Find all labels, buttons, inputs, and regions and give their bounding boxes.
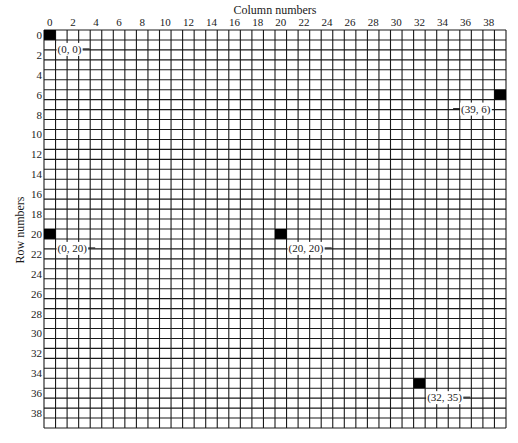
column-tick-label: 30 (391, 16, 403, 28)
column-tick-label: 2 (70, 16, 76, 28)
column-tick-label: 10 (160, 16, 172, 28)
row-tick-label: 36 (31, 387, 43, 399)
row-tick-label: 10 (31, 128, 43, 140)
column-axis-title: Column numbers (234, 3, 317, 17)
row-tick-label: 4 (37, 69, 43, 81)
column-tick-label: 18 (252, 16, 264, 28)
cell-coordinate-label: (0, 0) (58, 43, 82, 56)
column-tick-label: 36 (460, 16, 472, 28)
row-tick-label: 38 (31, 407, 43, 419)
cell-coordinate-label: (20, 20) (289, 242, 324, 255)
row-tick-label: 2 (37, 49, 43, 61)
row-tick-label: 26 (31, 288, 43, 300)
row-tick-label: 28 (31, 308, 43, 320)
filled-cell (275, 229, 287, 239)
cell-coordinate-label: (32, 35) (427, 391, 462, 404)
pixel-grid-diagram: Column numbers Row numbers 0246810121416… (0, 0, 518, 443)
column-tick-label: 14 (206, 16, 218, 28)
column-tick-label: 32 (414, 16, 425, 28)
row-tick-label: 20 (31, 228, 43, 240)
column-tick-label: 6 (116, 16, 122, 28)
column-tick-label: 24 (321, 16, 333, 28)
row-tick-labels: 02468101214161820222426283032343638 (31, 29, 43, 419)
column-tick-label: 22 (298, 16, 309, 28)
row-tick-label: 24 (31, 268, 43, 280)
row-tick-label: 30 (31, 327, 43, 339)
filled-cell (44, 229, 56, 239)
row-tick-label: 32 (31, 347, 42, 359)
column-tick-label: 34 (437, 16, 449, 28)
filled-cell (414, 378, 426, 388)
cell-coordinate-label: (0, 20) (58, 242, 88, 255)
row-tick-label: 18 (31, 208, 43, 220)
row-tick-label: 12 (31, 148, 42, 160)
filled-cell (494, 90, 506, 100)
column-tick-label: 4 (93, 16, 99, 28)
column-tick-label: 16 (229, 16, 241, 28)
column-tick-label: 26 (345, 16, 357, 28)
row-tick-label: 14 (31, 168, 43, 180)
column-tick-label: 8 (139, 16, 145, 28)
column-tick-label: 20 (275, 16, 287, 28)
column-tick-label: 12 (183, 16, 194, 28)
row-tick-label: 6 (37, 89, 43, 101)
row-tick-label: 34 (31, 367, 43, 379)
cell-coordinate-label: (39, 6) (461, 103, 491, 116)
row-axis-title: Row numbers (13, 196, 27, 263)
row-tick-label: 8 (37, 109, 43, 121)
column-tick-label: 28 (368, 16, 380, 28)
column-tick-labels: 02468101214161820222426283032343638 (47, 16, 495, 28)
row-tick-label: 22 (31, 248, 42, 260)
cell-coordinate-labels: (0, 0)(39, 6)(0, 20)(20, 20)(32, 35) (57, 43, 492, 404)
column-tick-label: 38 (483, 16, 495, 28)
row-tick-label: 0 (37, 29, 43, 41)
column-tick-label: 0 (47, 16, 53, 28)
row-tick-label: 16 (31, 188, 43, 200)
filled-cell (44, 30, 56, 40)
